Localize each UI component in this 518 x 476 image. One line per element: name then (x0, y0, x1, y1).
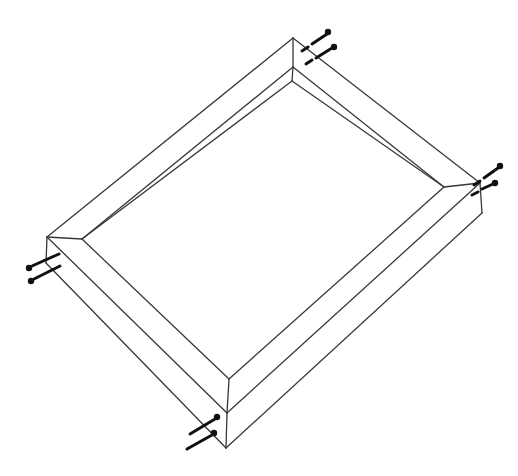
top-corner-nail-1-shaft-1 (312, 34, 327, 44)
outer-top-right-edge (293, 38, 480, 183)
inner-bottom-left-edge (82, 239, 229, 379)
top-corner-nail-2-head (331, 44, 337, 50)
inner-wall-bottom-edge-left (82, 81, 292, 239)
left-corner-nail-2 (28, 266, 60, 284)
top-corner-nail-1 (302, 29, 331, 51)
top-corner-nail-1-head (325, 29, 331, 35)
outer-bottom-right-edge (227, 183, 480, 413)
left-corner-nail-1-shaft-1 (32, 254, 59, 266)
right-corner-nail-1-head (497, 163, 503, 169)
frame-outline (46, 38, 482, 448)
miter-joint-left-corner (47, 237, 82, 239)
bottom-corner-nail-2-head (211, 430, 217, 436)
left-corner-nail-2-head (28, 278, 34, 284)
outer-top-left-edge (47, 38, 293, 237)
inner-top-right-edge (293, 67, 444, 187)
right-corner-nail-2-head (492, 180, 498, 186)
frame-illustration (0, 0, 518, 476)
right-corner-nail-2-shaft-2 (472, 192, 478, 195)
inner-top-left-edge (82, 67, 293, 239)
top-corner-nail-1-shaft-2 (302, 47, 308, 51)
corner-nails (26, 29, 503, 449)
bottom-corner-nail-1-head (214, 414, 220, 420)
right-corner-nail-2-shaft-1 (482, 184, 493, 189)
right-corner-nail-1 (474, 163, 503, 185)
outer-bottom-left-edge (47, 237, 227, 413)
bottom-outline-right-side (226, 213, 482, 448)
drawing-canvas (0, 0, 518, 476)
left-corner-nail-1-head (26, 265, 32, 271)
inner-bottom-right-edge (229, 187, 444, 379)
right-corner-nail-1-shaft-1 (484, 168, 498, 178)
miter-joint-bottom-corner (227, 379, 229, 413)
inner-wall-vertical-top (292, 67, 293, 81)
top-corner-nail-2-shaft-1 (316, 48, 332, 58)
bottom-corner-nail-2-shaft-1 (187, 435, 212, 449)
side-thickness-edge-bottom (226, 413, 227, 448)
top-corner-nail-2-shaft-2 (306, 60, 312, 64)
